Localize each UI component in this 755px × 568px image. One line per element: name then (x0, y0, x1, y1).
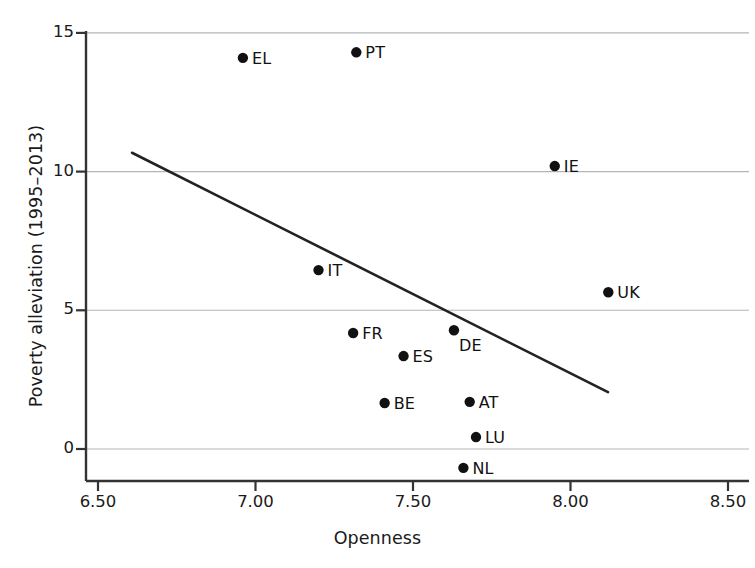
point-label-el: EL (252, 49, 271, 68)
y-tick-label: 10 (14, 161, 74, 180)
point-label-ie: IE (564, 157, 579, 176)
data-point-be[interactable] (379, 398, 389, 408)
data-point-nl[interactable] (458, 463, 468, 473)
point-label-pt: PT (365, 43, 385, 62)
axes-group (86, 31, 749, 481)
y-tick-label: 15 (14, 22, 74, 41)
data-point-pt[interactable] (351, 47, 361, 57)
point-label-nl: NL (472, 459, 493, 478)
data-point-uk[interactable] (603, 287, 613, 297)
gridlines-group (86, 33, 749, 449)
x-tick-label: 7.00 (216, 492, 296, 511)
point-label-lu: LU (485, 428, 505, 447)
trendline (132, 153, 608, 392)
point-label-de: DE (459, 336, 482, 355)
point-label-it: IT (328, 261, 343, 280)
point-label-uk: UK (617, 283, 640, 302)
data-point-at[interactable] (465, 397, 475, 407)
data-point-ie[interactable] (550, 161, 560, 171)
point-label-es: ES (413, 347, 434, 366)
data-point-it[interactable] (313, 265, 323, 275)
x-axis-title: Openness (0, 528, 755, 548)
x-tick-label: 6.50 (58, 492, 138, 511)
axis-ticks-group (76, 33, 728, 491)
y-tick-label: 5 (14, 299, 74, 318)
point-label-fr: FR (362, 324, 383, 343)
data-point-el[interactable] (238, 53, 248, 63)
x-tick-label: 8.50 (688, 492, 755, 511)
data-points-group (238, 47, 614, 473)
x-tick-label: 7.50 (373, 492, 453, 511)
point-label-at: AT (479, 393, 499, 412)
trendline-group (132, 153, 608, 392)
point-label-be: BE (394, 394, 416, 413)
data-point-es[interactable] (398, 351, 408, 361)
y-tick-label: 0 (14, 438, 74, 457)
data-point-fr[interactable] (348, 328, 358, 338)
x-tick-label: 8.00 (531, 492, 611, 511)
data-point-de[interactable] (449, 325, 459, 335)
data-point-lu[interactable] (471, 432, 481, 442)
plot-canvas (0, 0, 755, 568)
scatter-chart-figure: Poverty alleviation (1995–2013) Openness… (0, 0, 755, 568)
